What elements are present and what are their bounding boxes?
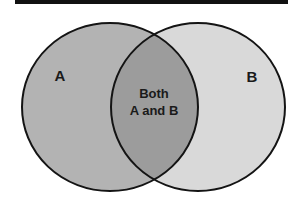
label-intersection-line2: A and B: [130, 103, 179, 118]
venn-diagram: A B Both A and B: [0, 0, 298, 204]
top-rule: [15, 0, 288, 4]
label-b: B: [247, 68, 258, 85]
label-intersection-line1: Both: [139, 86, 169, 101]
label-a: A: [55, 67, 66, 84]
